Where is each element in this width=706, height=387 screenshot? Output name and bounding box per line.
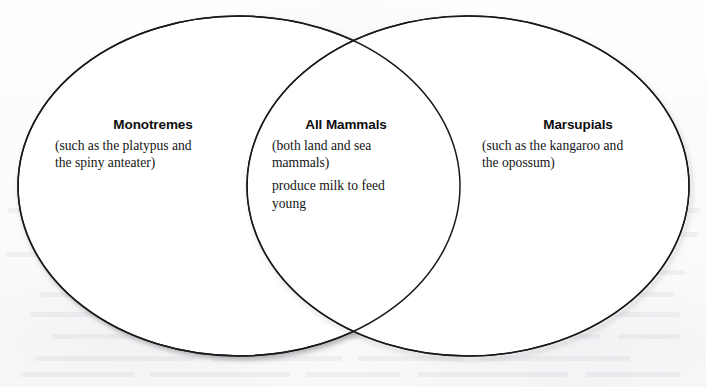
venn-label-right: Marsupials (such as the kangaroo and the… bbox=[482, 117, 674, 171]
venn-center-line-2: mammals) bbox=[272, 154, 420, 171]
venn-heading-monotremes: Monotremes bbox=[55, 117, 251, 132]
venn-label-center: All Mammals (both land and sea mammals) … bbox=[272, 117, 420, 212]
venn-heading-all-mammals: All Mammals bbox=[272, 117, 420, 132]
venn-left-line-2: the spiny anteater) bbox=[55, 154, 251, 171]
venn-center-line-3: produce milk to feed bbox=[272, 177, 420, 194]
venn-heading-marsupials: Marsupials bbox=[482, 117, 674, 132]
venn-right-line-1: (such as the kangaroo and bbox=[482, 137, 674, 154]
venn-center-line-4: young bbox=[272, 195, 420, 212]
venn-left-line-1: (such as the platypus and bbox=[55, 137, 251, 154]
venn-right-line-2: the opossum) bbox=[482, 154, 674, 171]
venn-center-line-1: (both land and sea bbox=[272, 137, 420, 154]
venn-label-left: Monotremes (such as the platypus and the… bbox=[55, 117, 251, 171]
venn-diagram-page: Monotremes (such as the platypus and the… bbox=[0, 0, 706, 387]
